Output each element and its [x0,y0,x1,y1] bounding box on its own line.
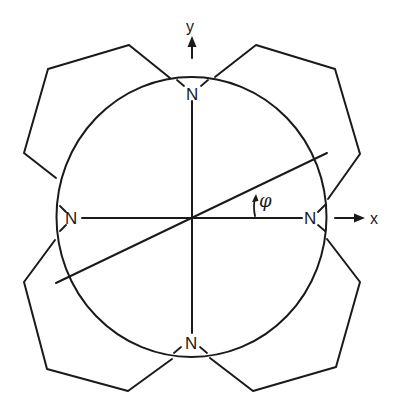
y-arrow-head-icon [188,36,197,47]
bond-tick [200,347,207,353]
ring-top-left [24,45,170,178]
ring-bottom-right [210,239,360,391]
bond-tick [318,205,325,212]
angle-arrow-head-icon [252,194,259,202]
ring-top-right [215,45,360,199]
macrocycle-diagram: y x φ N N N N [0,0,398,409]
bond-tick [174,347,181,353]
nitrogen-bottom: N [185,334,197,353]
y-axis-label: y [186,18,194,35]
x-axis-label: x [370,210,378,227]
phi-label: φ [259,190,272,211]
nitrogen-right: N [304,209,316,228]
x-arrow-head-icon [354,214,365,223]
bond-tick [177,80,184,86]
nitrogen-top: N [186,85,198,104]
bond-tick [201,80,208,86]
nitrogen-left: N [65,209,77,228]
bond-tick [318,225,325,231]
